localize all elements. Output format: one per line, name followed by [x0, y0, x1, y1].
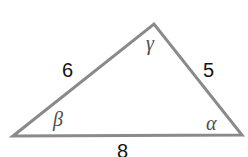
angle-label-alpha: α	[206, 113, 217, 133]
angle-label-gamma: γ	[146, 33, 154, 53]
side-length-label-left: 6	[62, 60, 73, 80]
triangle-figure: 6 5 8 β γ α	[0, 0, 248, 157]
angle-label-beta: β	[53, 109, 63, 129]
side-length-label-right: 5	[203, 60, 214, 80]
side-length-label-base: 8	[117, 141, 128, 157]
